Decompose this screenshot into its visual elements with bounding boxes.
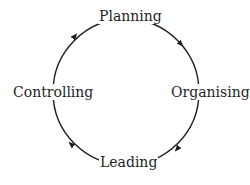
node-organising: Organising — [170, 84, 250, 100]
node-planning: Planning — [98, 8, 163, 24]
node-leading: Leading — [99, 154, 158, 170]
node-controlling: Controlling — [12, 84, 94, 100]
